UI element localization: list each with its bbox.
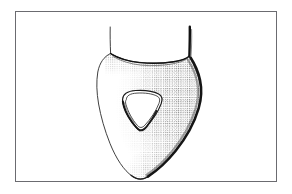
figure-root	[0, 0, 292, 194]
figure-canvas	[0, 0, 292, 194]
